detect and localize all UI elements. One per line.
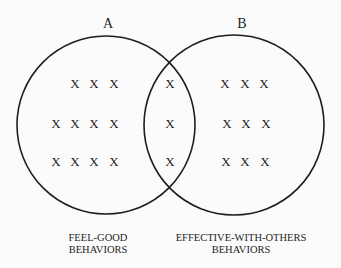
x-mark-set-b: X: [260, 154, 270, 169]
intersection-marks: XXX: [165, 76, 175, 169]
x-mark-set-a: X: [51, 116, 61, 131]
x-mark-set-a: X: [89, 154, 99, 169]
x-mark-set-a: X: [109, 116, 119, 131]
set-a-label: A: [103, 16, 114, 31]
x-mark-set-a: X: [89, 76, 99, 91]
venn-diagram: A B XXXXXXXXXXX XXX XXXXXXXXX FEEL-GOOD …: [0, 0, 341, 268]
x-mark-set-a: X: [70, 116, 80, 131]
set-b-only-marks: XXXXXXXXX: [220, 76, 271, 169]
x-mark-set-a: X: [109, 76, 119, 91]
x-mark-set-b: X: [221, 154, 231, 169]
x-mark-set-b: X: [259, 76, 269, 91]
x-mark-set-b: X: [240, 76, 250, 91]
x-mark-set-a: X: [70, 154, 80, 169]
x-mark-set-b: X: [240, 154, 250, 169]
set-b-caption-line-1: EFFECTIVE-WITH-OTHERS: [176, 232, 307, 243]
x-mark-intersection: X: [165, 154, 175, 169]
x-mark-set-a: X: [89, 116, 99, 131]
x-mark-set-b: X: [241, 116, 251, 131]
set-a-caption-line-1: FEEL-GOOD: [69, 232, 128, 243]
venn-diagram-canvas: A B XXXXXXXXXXX XXX XXXXXXXXX FEEL-GOOD …: [0, 0, 341, 268]
x-mark-set-a: X: [109, 154, 119, 169]
x-mark-intersection: X: [165, 76, 175, 91]
set-a-only-marks: XXXXXXXXXXX: [51, 76, 119, 169]
x-mark-set-b: X: [261, 116, 271, 131]
x-mark-set-a: X: [70, 76, 80, 91]
x-mark-intersection: X: [165, 116, 175, 131]
set-b-caption-line-2: BEHAVIORS: [212, 244, 271, 255]
set-b-label: B: [237, 16, 246, 31]
set-a-caption-line-2: BEHAVIORS: [69, 244, 128, 255]
x-mark-set-b: X: [220, 76, 230, 91]
x-mark-set-a: X: [51, 154, 61, 169]
x-mark-set-b: X: [222, 116, 232, 131]
